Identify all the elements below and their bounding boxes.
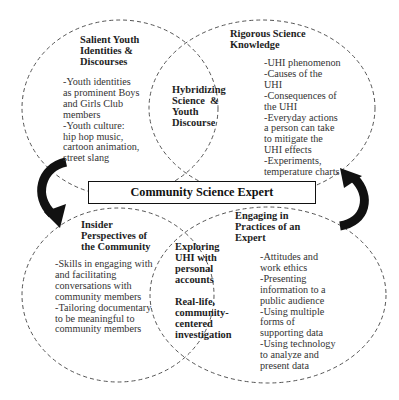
venn-diagram: Community Science Expert Salient Youth I… [0, 0, 399, 400]
curved-arrow-up-icon [340, 168, 364, 226]
rigorous-science-body: -UHI phenomenon -Causes of the UHI -Cons… [264, 58, 341, 178]
rigorous-science-heading: Rigorous Science Knowledge [230, 28, 306, 50]
exploring-overlap-text: Exploring UHI with personal accounts Rea… [175, 241, 232, 340]
engaging-practices-body: -Attitudes and work ethics -Presenting i… [260, 252, 336, 372]
salient-youth-heading: Salient Youth Identities & Discourses [80, 34, 139, 67]
salient-youth-body: -Youth identities as prominent Boys and … [63, 77, 139, 164]
engaging-practices-heading: Engaging in Practices of an Expert [235, 210, 300, 243]
insider-perspectives-body: -Skills in engaging with and facilitatin… [55, 259, 153, 335]
hybridizing-overlap-text: Hybridizing Science & Youth Discourse [172, 84, 226, 128]
insider-perspectives-heading: Insider Perspectives of the Community [81, 219, 151, 252]
curved-arrow-down-icon [42, 162, 66, 228]
community-science-expert-box: Community Science Expert [88, 181, 316, 204]
diagram-title: Community Science Expert [131, 185, 274, 200]
